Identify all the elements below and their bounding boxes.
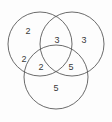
venn-diagram-figure: 2 3 3 2 2 5 5 <box>0 0 112 122</box>
label-left-lower: 2 <box>18 55 30 64</box>
label-top-intersection: 3 <box>51 36 63 45</box>
label-top-right-only: 3 <box>78 36 90 45</box>
label-left-bottom-overlap: 2 <box>35 63 47 72</box>
label-right-bottom-overlap: 5 <box>65 63 77 72</box>
label-bottom-only: 5 <box>50 84 62 93</box>
label-top-left-only: 2 <box>22 27 34 36</box>
circle-bottom <box>24 45 88 109</box>
venn-circles-group <box>0 0 112 122</box>
